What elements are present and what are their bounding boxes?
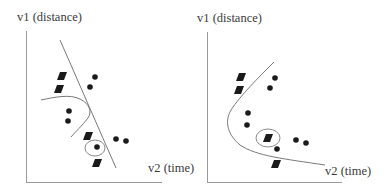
left-y-axis-label: v1 (distance) <box>17 10 82 24</box>
right-y-axis-label: v1 (distance) <box>197 11 262 25</box>
diamond-marker <box>83 132 93 140</box>
diamond-marker <box>236 73 246 81</box>
diamond-marker <box>271 160 281 168</box>
dot-marker <box>245 110 251 116</box>
dot-marker <box>92 74 98 80</box>
dot-marker <box>267 85 273 91</box>
diamond-marker <box>92 159 102 167</box>
left-panel: v1 (distance) v2 (time) <box>17 10 194 183</box>
right-panel: v1 (distance) v2 (time) <box>197 11 371 183</box>
dot-marker <box>303 140 309 146</box>
dot-marker <box>87 84 93 90</box>
dot-marker <box>65 118 71 124</box>
right-dots <box>244 75 309 152</box>
dot-marker <box>94 144 100 150</box>
diamond-marker <box>57 72 67 80</box>
left-curved-boundary <box>41 96 90 137</box>
dot-marker <box>274 146 280 152</box>
left-linear-boundary <box>60 40 116 168</box>
right-diamonds <box>234 73 281 168</box>
diamond-marker <box>234 86 244 94</box>
dot-marker <box>293 137 299 143</box>
diamond-marker <box>263 134 273 142</box>
right-x-axis-label: v2 (time) <box>325 164 371 178</box>
left-dots <box>65 74 129 150</box>
dot-marker <box>272 75 278 81</box>
diagram-canvas: v1 (distance) v2 (time) v1 (distance) v2… <box>0 0 392 191</box>
dot-marker <box>66 108 72 114</box>
dot-marker <box>244 122 250 128</box>
dot-marker <box>123 138 129 144</box>
dot-marker <box>113 136 119 142</box>
diamond-marker <box>54 85 64 93</box>
left-x-axis-label: v2 (time) <box>148 161 194 175</box>
